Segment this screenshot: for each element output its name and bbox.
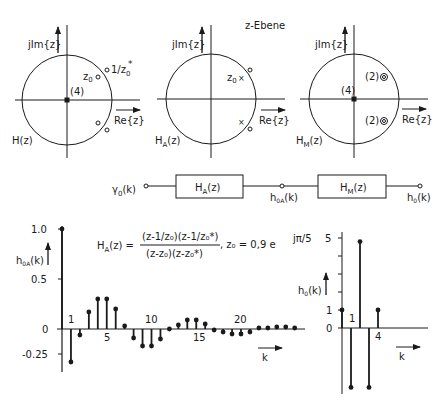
real-axis-label: Re{z} xyxy=(402,114,433,125)
x-axis-label: k xyxy=(399,351,405,362)
ytick-label: 1.0 xyxy=(31,224,47,235)
block-ha-label: HA(z) xyxy=(195,182,220,196)
block-diagram: γ0(k) HA(z) h0A(k) HM(z) h0(k) xyxy=(112,175,431,204)
stem-marker xyxy=(69,360,74,365)
stem-marker xyxy=(239,332,244,337)
stem-marker xyxy=(113,307,118,312)
double-zero-icon xyxy=(381,74,388,81)
pole-icon: × xyxy=(238,118,245,127)
origin-multiplicity: (4) xyxy=(341,85,355,96)
stem-marker xyxy=(95,297,100,302)
stem-marker xyxy=(274,325,279,330)
xtick-label: 10 xyxy=(145,314,158,325)
pole-origin-icon xyxy=(352,97,357,102)
pole-zero-plot-h: jIm{z} Re{z} (4) z0 1/z0 * H(z) xyxy=(12,25,145,158)
ytick-label: 0 xyxy=(42,324,48,335)
x-axis-label: k xyxy=(262,352,268,363)
ytick-label: 5 xyxy=(325,233,331,244)
stem-marker xyxy=(283,325,288,330)
output-terminal-icon xyxy=(418,184,422,188)
stem-marker xyxy=(203,322,208,327)
z0-label: z0 xyxy=(83,71,93,84)
stem-marker xyxy=(131,336,136,341)
stem-marker xyxy=(78,333,83,338)
real-axis-label: Re{z} xyxy=(114,115,145,126)
formula-denominator: (z-z₀)(z-z₀*) xyxy=(146,248,203,259)
stem-series xyxy=(340,239,381,390)
zero-icon xyxy=(105,68,109,72)
stem-marker xyxy=(257,326,262,331)
plot-name: HM(z) xyxy=(296,135,323,149)
input-terminal-icon xyxy=(144,184,148,188)
stem-marker xyxy=(230,332,235,337)
ytick-label: 1 xyxy=(326,305,332,316)
stem-marker xyxy=(358,239,363,244)
y-axis-label: h0A(k) xyxy=(16,255,44,267)
xtick-label: 4 xyxy=(375,331,381,342)
double-zero-icon xyxy=(381,118,388,125)
stem-chart-h0: 5 1 0 h0(k) 1 4 k xyxy=(298,232,428,394)
stem-marker xyxy=(367,385,372,390)
z-plane-title: z-Ebene xyxy=(245,20,285,31)
pole-icon: × xyxy=(238,74,245,83)
plot-name: HA(z) xyxy=(155,135,180,149)
stem-marker xyxy=(122,324,127,329)
y-axis-label: h0(k) xyxy=(298,285,322,297)
stem-marker xyxy=(167,327,172,332)
stem-marker xyxy=(248,330,253,335)
plot-name: H(z) xyxy=(12,135,33,146)
pole-zero-plot-hm: jIm{z} Re{z} (4) (2) (2) HM(z) xyxy=(296,25,433,158)
xtick-label: 1 xyxy=(68,314,74,325)
pole-zero-plot-ha: jIm{z} Re{z} × × z0 HA(z) xyxy=(155,25,290,158)
mid-signal-label: h0A(k) xyxy=(270,192,298,204)
real-axis-label: Re{z} xyxy=(259,115,290,126)
stem-marker xyxy=(176,323,181,328)
ytick-label: -0.25 xyxy=(22,349,48,360)
imag-axis-label: jIm{z} xyxy=(27,39,61,50)
stem-marker xyxy=(349,385,354,390)
mid-terminal-icon xyxy=(280,184,284,188)
stem-marker xyxy=(158,337,163,342)
imag-axis-label: jIm{z} xyxy=(171,39,205,50)
ytick-label: 0 xyxy=(326,323,332,334)
transfer-function-formula: HA(z) = (z-1/z₀)(z-1/z₀*) (z-z₀)(z-z₀*) … xyxy=(97,231,312,259)
z0-label: z0 xyxy=(227,72,237,85)
stem-marker xyxy=(86,310,91,315)
formula-param-exponent: jπ/5 xyxy=(292,233,312,244)
zero-icon xyxy=(248,127,252,131)
multiplicity-lower: (2) xyxy=(365,115,379,126)
xtick-label: 20 xyxy=(234,314,247,325)
input-signal-label: γ0(k) xyxy=(112,184,136,198)
formula-numerator: (z-1/z₀)(z-1/z₀*) xyxy=(142,231,218,242)
output-signal-label: h0(k) xyxy=(407,192,431,204)
zero-icon xyxy=(105,128,109,132)
xtick-label: 15 xyxy=(193,332,206,343)
conj-star: * xyxy=(128,59,133,69)
origin-multiplicity: (4) xyxy=(70,86,84,97)
stem-marker xyxy=(60,227,65,232)
stem-marker xyxy=(149,344,154,349)
xtick-label: 1 xyxy=(349,313,355,324)
stem-marker xyxy=(212,328,217,333)
stem-marker xyxy=(340,308,345,313)
zero-icon xyxy=(96,121,100,125)
ytick-label: 0.5 xyxy=(31,274,47,285)
block-hm-label: HM(z) xyxy=(340,182,367,196)
stem-marker xyxy=(185,318,190,323)
stem-marker xyxy=(376,308,381,313)
stem-marker xyxy=(140,344,145,349)
stem-marker xyxy=(104,297,109,302)
stem-marker xyxy=(194,318,199,323)
pole-origin-icon xyxy=(65,98,70,103)
stem-marker xyxy=(292,326,297,331)
zero-icon xyxy=(248,68,252,72)
formula-param: , z₀ = 0,9 e xyxy=(220,239,276,250)
figure-canvas: z-Ebene jIm{z} Re{z} (4) z0 1/z0 * H(z) … xyxy=(0,0,447,409)
stem-marker xyxy=(265,326,270,331)
multiplicity-upper: (2) xyxy=(365,71,379,82)
stem-marker xyxy=(221,330,226,335)
formula-lhs: HA(z) = xyxy=(97,240,134,254)
imag-axis-label: jIm{z} xyxy=(314,39,348,50)
zero-icon xyxy=(96,75,100,79)
xtick-label: 5 xyxy=(104,332,110,343)
